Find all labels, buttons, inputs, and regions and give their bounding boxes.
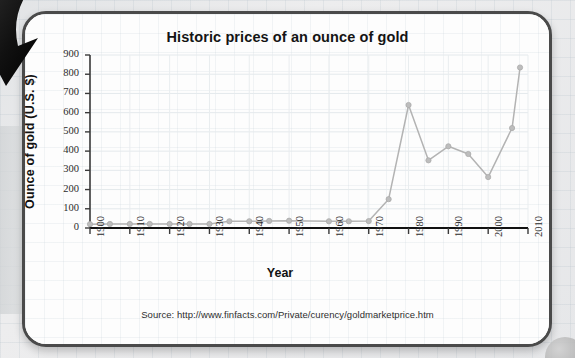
x-axis-tick-label: 2000 bbox=[493, 216, 504, 237]
chart-data-point bbox=[486, 174, 491, 179]
y-axis-tick-label: 400 bbox=[45, 144, 79, 155]
x-axis-tick-label: 1920 bbox=[175, 216, 186, 237]
chart-data-point bbox=[247, 219, 252, 224]
x-axis-tick-label: 1930 bbox=[214, 216, 225, 237]
slide-root: Historic prices of an ounce of gold Ounc… bbox=[0, 0, 575, 358]
chart-data-point bbox=[446, 144, 451, 149]
chart-data-point bbox=[207, 221, 212, 226]
x-axis-tick-label: 1940 bbox=[254, 216, 265, 237]
chart-data-point bbox=[426, 158, 431, 163]
x-axis-tick-label: 2010 bbox=[533, 216, 544, 237]
chart-data-point bbox=[509, 125, 514, 130]
y-axis-tick-label: 300 bbox=[45, 163, 79, 174]
y-axis-tick-label: 0 bbox=[45, 221, 79, 232]
chart-tick-marks bbox=[85, 55, 528, 234]
chart-data-point bbox=[286, 218, 291, 223]
chart-data-point bbox=[466, 151, 471, 156]
y-axis-tick-label: 100 bbox=[45, 202, 79, 213]
down-left-arrow-icon bbox=[0, 0, 102, 104]
chart-data-point bbox=[267, 218, 272, 223]
y-axis-tick-label: 600 bbox=[45, 106, 79, 117]
chart-axes bbox=[90, 55, 528, 228]
x-axis-tick-label: 1990 bbox=[453, 216, 464, 237]
chart-data-point bbox=[147, 221, 152, 226]
x-axis-tick-label: 1910 bbox=[135, 216, 146, 237]
y-axis-tick-label: 200 bbox=[45, 183, 79, 194]
chart-source-note: Source: http://www.finfacts.com/Private/… bbox=[0, 309, 575, 320]
x-axis-tick-label: 1970 bbox=[374, 216, 385, 237]
chart-data-point bbox=[386, 197, 391, 202]
chart-series-gold-price bbox=[87, 65, 522, 227]
chart-data-point bbox=[87, 222, 92, 227]
chart-data-point bbox=[517, 65, 522, 70]
y-axis-tick-label: 500 bbox=[45, 125, 79, 136]
chart-data-point bbox=[406, 102, 411, 107]
chart-data-point bbox=[366, 218, 371, 223]
x-axis-tick-label: 1960 bbox=[334, 216, 345, 237]
chart-data-point bbox=[107, 221, 112, 226]
chart-data-point bbox=[227, 219, 232, 224]
chart-data-point bbox=[346, 219, 351, 224]
chart-data-point bbox=[187, 221, 192, 226]
chart-data-point bbox=[167, 221, 172, 226]
x-axis-tick-label: 1900 bbox=[95, 216, 106, 237]
x-axis-tick-label: 1980 bbox=[414, 216, 425, 237]
x-axis-tick-label: 1950 bbox=[294, 216, 305, 237]
chart-data-point bbox=[127, 221, 132, 226]
chart-gridlines bbox=[90, 55, 528, 228]
chart-data-point bbox=[326, 219, 331, 224]
